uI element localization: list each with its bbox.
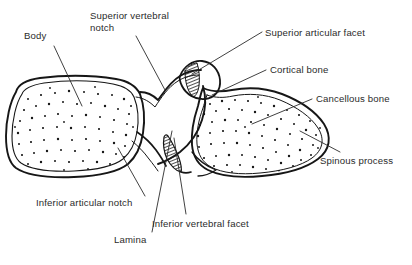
leader-lamina: [152, 131, 172, 232]
label-body: Body: [24, 30, 46, 42]
label-lamina: Lamina: [114, 234, 146, 246]
leader-superior-vertebral-notch: [136, 36, 165, 90]
spinous-process-shape: [192, 88, 329, 177]
leader-inferior-articular-notch: [118, 148, 145, 196]
label-inferior-vertebral-facet: Inferior vertebral facet: [152, 218, 249, 230]
cancellous-stipple-body: [14, 86, 134, 171]
leader-superior-articular-facet: [192, 32, 262, 74]
vertebra-diagram-page: Body Superior vertebral notch Superior a…: [0, 0, 412, 265]
label-cancellous-bone: Cancellous bone: [316, 93, 390, 105]
label-cortical-bone: Cortical bone: [270, 64, 328, 76]
label-spinous-process: Spinous process: [320, 155, 393, 167]
superior-articular-facet-shape: [180, 61, 221, 99]
label-superior-articular-facet: Superior articular facet: [265, 27, 365, 39]
label-superior-vertebral-notch: Superior vertebral notch: [90, 10, 169, 33]
label-inferior-articular-notch: Inferior articular notch: [36, 197, 132, 209]
cancellous-stipple-spine: [197, 95, 321, 173]
